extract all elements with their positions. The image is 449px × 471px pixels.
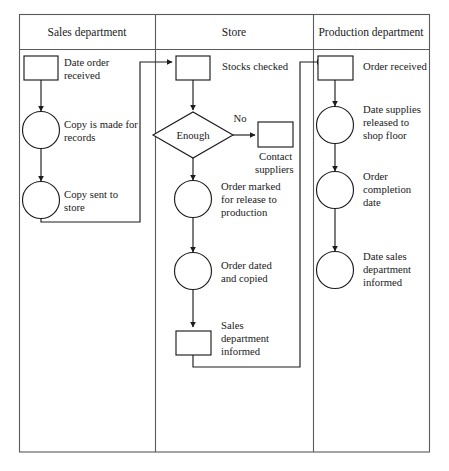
node-date-sales-department-informed[interactable] — [317, 252, 354, 289]
svg-text:Order received: Order received — [363, 60, 427, 72]
svg-text:received: received — [64, 69, 101, 81]
svg-text:completion: completion — [363, 183, 412, 195]
label-contact-suppliers: Contact suppliers — [255, 150, 294, 175]
label-enough: Enough — [176, 129, 210, 141]
label-date-order-received: Date order received — [64, 56, 110, 81]
node-order-marked-for-release[interactable] — [175, 181, 212, 218]
svg-text:Order dated: Order dated — [221, 259, 272, 271]
label-copy-is-made-for-records: Copy is made for records — [64, 118, 138, 143]
column-header-sales: Sales department — [48, 26, 128, 39]
node-sales-department-informed[interactable] — [176, 331, 211, 355]
svg-text:Contact: Contact — [259, 150, 292, 162]
node-date-order-received[interactable] — [24, 56, 58, 80]
label-order-received: Order received — [363, 60, 427, 72]
svg-text:Order: Order — [363, 170, 388, 182]
svg-text:suppliers: suppliers — [255, 163, 294, 175]
node-order-received[interactable] — [318, 56, 353, 80]
svg-text:shop floor: shop floor — [363, 129, 407, 141]
svg-text:informed: informed — [221, 345, 261, 357]
svg-text:date: date — [363, 196, 381, 208]
label-order-dated-and-copied: Order dated and copied — [221, 259, 272, 284]
column-header-store: Store — [222, 26, 246, 38]
svg-text:informed: informed — [363, 276, 403, 288]
svg-text:Date supplies: Date supplies — [363, 103, 421, 115]
svg-text:Sales: Sales — [221, 319, 244, 331]
node-date-supplies-released[interactable] — [317, 107, 354, 144]
svg-text:production: production — [221, 206, 268, 218]
label-no-branch: No — [233, 112, 246, 124]
label-order-completion-date: Order completion date — [363, 170, 412, 208]
label-date-supplies-released: Date supplies released to shop floor — [363, 103, 421, 141]
node-order-dated-and-copied[interactable] — [175, 253, 212, 290]
flowchart-diagram: Sales department Store Production depart… — [0, 0, 449, 471]
svg-text:records: records — [64, 131, 95, 143]
svg-text:Order marked: Order marked — [221, 180, 281, 192]
label-sales-department-informed: Sales department informed — [221, 319, 269, 357]
svg-text:department: department — [221, 332, 269, 344]
svg-text:Copy sent to: Copy sent to — [64, 188, 118, 200]
node-order-completion-date[interactable] — [317, 172, 354, 209]
svg-text:store: store — [64, 201, 85, 213]
node-contact-suppliers[interactable] — [258, 122, 293, 147]
column-header-production: Production department — [318, 26, 424, 39]
svg-text:Copy is made for: Copy is made for — [64, 118, 138, 130]
label-copy-sent-to-store: Copy sent to store — [64, 188, 118, 213]
svg-text:department: department — [363, 263, 411, 275]
svg-text:released to: released to — [363, 116, 409, 128]
svg-text:Stocks checked: Stocks checked — [222, 60, 289, 72]
node-copy-is-made-for-records[interactable] — [23, 112, 60, 149]
label-stocks-checked: Stocks checked — [222, 60, 289, 72]
node-copy-sent-to-store[interactable] — [23, 182, 60, 219]
svg-text:Date sales: Date sales — [363, 250, 407, 262]
node-stocks-checked[interactable] — [176, 56, 210, 80]
svg-text:and copied: and copied — [221, 272, 268, 284]
svg-text:for release to: for release to — [221, 193, 277, 205]
label-order-marked-for-release: Order marked for release to production — [221, 180, 281, 218]
svg-text:Date order: Date order — [64, 56, 110, 68]
label-date-sales-department-informed: Date sales department informed — [363, 250, 411, 288]
